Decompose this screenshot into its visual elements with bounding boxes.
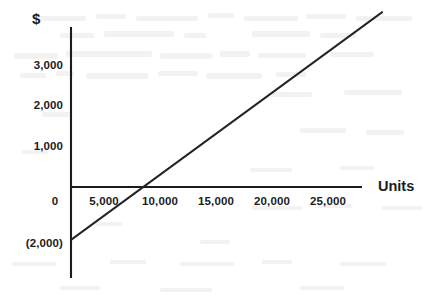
x-tick-label-25000: 25,000 — [310, 195, 346, 207]
x-tick-label-5000: 5,000 — [89, 195, 118, 207]
y-tick-label-3000: 3,000 — [0, 59, 63, 71]
y-tick-label-1000: 1,000 — [0, 140, 63, 152]
chart-page: $ Units 3,000 2,000 1,000 (2,000) 0 5,00… — [0, 0, 437, 301]
x-axis-title: Units — [378, 178, 414, 194]
chart-plot-area — [0, 0, 437, 301]
x-tick-label-20000: 20,000 — [254, 195, 290, 207]
y-tick-label-2000: 2,000 — [0, 99, 63, 111]
x-tick-label-0: 0 — [52, 195, 59, 207]
y-tick-label-negative-2000: (2,000) — [0, 237, 63, 249]
x-tick-label-15000: 15,000 — [198, 195, 234, 207]
x-tick-label-10000: 10,000 — [142, 195, 178, 207]
y-axis-title: $ — [32, 10, 40, 27]
